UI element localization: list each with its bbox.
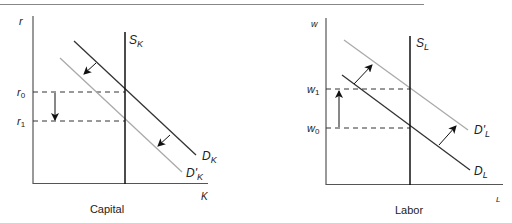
labor-demand-shifted-label: D'L <box>474 123 490 139</box>
capital-panel: r K r0 r1 SK DK D'K Capital <box>17 15 218 215</box>
capital-supply-label: SK <box>129 33 144 49</box>
capital-y-axis-label: r <box>19 15 24 27</box>
labor-panel-title: Labor <box>395 204 423 216</box>
factor-market-diagram: r K r0 r1 SK DK D'K Capital w L w1 w0 SL… <box>0 0 512 223</box>
capital-x-axis-label: K <box>201 191 209 202</box>
labor-w1-label: w1 <box>307 83 320 97</box>
capital-demand-label: DK <box>202 149 218 165</box>
labor-supply-label: SL <box>416 36 429 52</box>
capital-panel-title: Capital <box>90 203 124 215</box>
labor-y-axis-label: w <box>311 19 318 29</box>
capital-shift-arrow-bottom <box>158 135 170 146</box>
labor-panel: w L w1 w0 SL D'L DL Labor <box>307 18 503 216</box>
capital-shift-arrow-top <box>84 63 96 74</box>
labor-demand-shifted-curve <box>344 40 468 130</box>
labor-x-axis-label: L <box>496 195 500 204</box>
capital-r0-label: r0 <box>17 86 26 100</box>
labor-w0-label: w0 <box>307 122 320 136</box>
labor-shift-arrow-bottom <box>439 126 456 145</box>
labor-demand-label: DL <box>474 164 488 180</box>
labor-shift-arrow-top <box>354 65 372 84</box>
capital-demand-shifted-label: D'K <box>186 166 204 182</box>
capital-r1-label: r1 <box>17 115 26 129</box>
capital-demand-curve <box>74 41 196 155</box>
labor-demand-curve <box>342 75 470 170</box>
capital-demand-shifted-curve <box>60 58 182 172</box>
